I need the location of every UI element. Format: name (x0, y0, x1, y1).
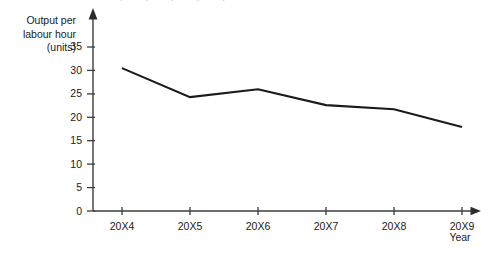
y-tick-label-25: 25 (56, 88, 82, 99)
y-tick-label-30: 30 (56, 65, 82, 76)
x-tick-label-20x5: 20X5 (168, 221, 212, 232)
y-tick-label-5: 5 (56, 182, 82, 193)
data-line-series (122, 68, 462, 127)
y-axis-arrowhead (89, 8, 98, 20)
x-tick-label-20x6: 20X6 (236, 221, 280, 232)
line-chart: . . . . . Output per labour hour (units) (0, 0, 488, 253)
x-tick-label-20x7: 20X7 (304, 221, 348, 232)
y-tick-label-15: 15 (56, 135, 82, 146)
y-tick-label-10: 10 (56, 159, 82, 170)
x-axis-arrowhead (471, 207, 482, 215)
y-tick-label-0: 0 (56, 206, 82, 217)
x-tick-label-20x4: 20X4 (100, 221, 144, 232)
y-tick-label-35: 35 (56, 41, 82, 52)
y-tick-marks (87, 47, 95, 211)
x-axis-label: Year (438, 232, 482, 243)
y-tick-label-20: 20 (56, 112, 82, 123)
x-tick-label-20x8: 20X8 (372, 221, 416, 232)
